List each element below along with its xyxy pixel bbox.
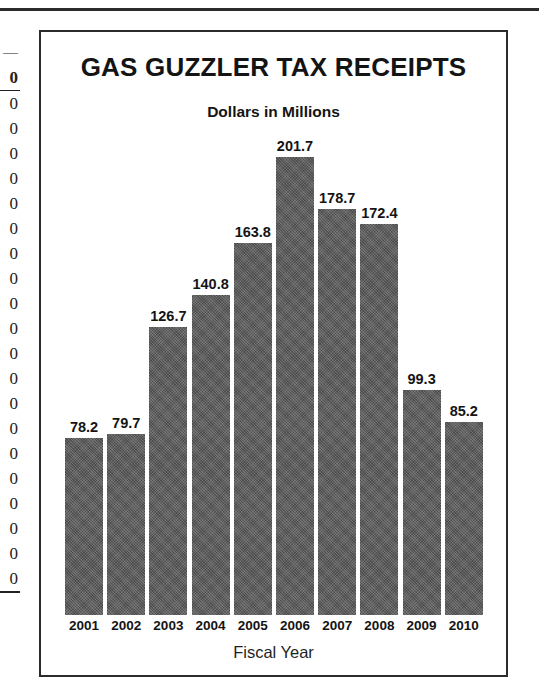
cropped-column-digit: 0 [0,341,20,366]
bar-value-label: 201.7 [270,138,320,154]
bar [276,157,314,615]
cropped-column-digit: 0 [0,566,20,593]
cropped-column-digit: 0 [0,391,20,416]
cropped-column-dash: — [0,40,20,65]
cropped-column-digit: 0 [0,116,20,141]
bar-value-label: 99.3 [397,371,447,387]
cropped-column-digit: 0 [0,366,20,391]
cropped-column-digit: 0 [0,166,20,191]
bar [360,224,398,615]
bar-group: 201.7 [276,127,314,615]
chart-subtitle: Dollars in Millions [41,103,506,121]
x-axis-title: Fiscal Year [41,643,506,662]
bar [149,327,187,615]
cropped-column-digit: 0 [0,466,20,491]
bar [65,438,103,615]
bar [445,422,483,615]
bar [192,295,230,615]
bar-group: 99.3 [403,127,441,615]
cropped-column-digit: 0 [0,316,20,341]
page-top-rule [0,8,539,11]
x-tick-label: 2004 [189,618,233,633]
bar [318,209,356,615]
cropped-column-digit: 0 [0,516,20,541]
cropped-column-digit: 0 [0,91,20,116]
x-tick-label: 2003 [146,618,190,633]
x-tick-label: 2007 [315,618,359,633]
x-tick-label: 2010 [442,618,486,633]
x-tick-label: 2005 [231,618,275,633]
bar-value-label: 126.7 [143,308,193,324]
cropped-column-digit: 0 [0,541,20,566]
bar [234,243,272,615]
plot-area: 78.279.7126.7140.8163.8201.7178.7172.499… [64,127,488,615]
bar-value-label: 163.8 [228,224,278,240]
bar-group: 178.7 [318,127,356,615]
cropped-column-digit: 0 [0,141,20,166]
bar-value-label: 79.7 [101,415,151,431]
bar-group: 172.4 [360,127,398,615]
cropped-column-digit: 0 [0,441,20,466]
bar-group: 140.8 [192,127,230,615]
chart-title: GAS GUZZLER TAX RECEIPTS [41,52,506,83]
x-axis-tick-labels: 2001200220032004200520062007200820092010 [64,618,488,638]
x-tick-label: 2009 [400,618,444,633]
bar-group: 163.8 [234,127,272,615]
x-tick-label: 2008 [357,618,401,633]
bar-group: 126.7 [149,127,187,615]
bar-group: 78.2 [65,127,103,615]
bar [403,390,441,615]
x-tick-label: 2002 [104,618,148,633]
chart-frame: GAS GUZZLER TAX RECEIPTS Dollars in Mill… [39,30,508,677]
cropped-table-column: —000000000000000000000 [0,40,20,625]
cropped-column-total: 0 [0,65,20,91]
x-tick-label: 2001 [62,618,106,633]
cropped-column-digit: 0 [0,191,20,216]
bar-group: 85.2 [445,127,483,615]
bar-value-label: 85.2 [439,403,489,419]
bar-group: 79.7 [107,127,145,615]
bar [107,434,145,615]
cropped-column-digit: 0 [0,216,20,241]
bar-value-label: 140.8 [186,276,236,292]
cropped-column-digit: 0 [0,416,20,441]
x-tick-label: 2006 [273,618,317,633]
cropped-column-digit: 0 [0,266,20,291]
bar-value-label: 172.4 [354,205,404,221]
cropped-column-digit: 0 [0,491,20,516]
cropped-column-digit: 0 [0,291,20,316]
cropped-column-digit: 0 [0,241,20,266]
